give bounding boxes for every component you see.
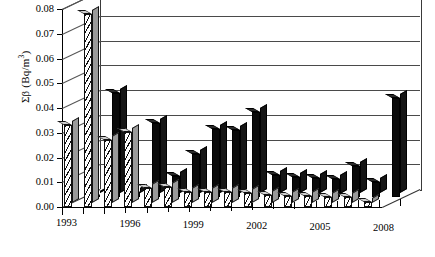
axis-x-front (62, 207, 382, 208)
y-axis-tick-label: 0.01 (20, 177, 54, 188)
x-axis-tick (125, 206, 126, 213)
bar-side-face (200, 146, 207, 193)
x-axis-tick (400, 199, 401, 206)
y-gridline (100, 65, 420, 66)
bar-side-face (132, 124, 139, 203)
y-axis-tick-label: 0.05 (20, 78, 54, 89)
x-axis-tick (316, 201, 317, 208)
x-axis-tick (168, 205, 169, 212)
x-axis-tick (189, 205, 190, 212)
y-axis-tick-label: 0.07 (20, 29, 54, 40)
x-axis-tick (273, 202, 274, 209)
x-axis-tick-label: 1993 (56, 217, 77, 228)
x-axis-tick (252, 203, 253, 210)
y-gridline (100, 90, 420, 91)
beta-activity-bar-chart: Σβ (Bq/m3) 0.000.010.020.030.040.050.060… (0, 0, 435, 257)
bar-hatched (364, 202, 372, 207)
bar-side-face (92, 6, 99, 203)
y-axis-tick-label: 0.06 (20, 54, 54, 65)
bar-side-face (72, 117, 79, 203)
bar-side-face (112, 132, 119, 203)
x-axis-tick (337, 201, 338, 208)
x-axis-tick-label: 1996 (119, 218, 140, 229)
bar-hatched (104, 140, 112, 207)
x-axis-tick (104, 207, 105, 214)
bar-side-face (360, 158, 367, 193)
bar-solid (392, 98, 400, 197)
bar-hatched (64, 125, 72, 207)
bar-hatched (304, 196, 312, 207)
y-axis-tick-label: 0.03 (20, 128, 54, 139)
bar-side-face (160, 115, 167, 193)
bar-side-face (240, 122, 247, 193)
bar-side-face (340, 171, 347, 194)
bar-hatched (284, 196, 292, 207)
bar-hatched (204, 192, 212, 207)
x-axis-tick-label: 2005 (310, 221, 331, 232)
bar-side-face (400, 90, 407, 193)
bar-hatched (144, 188, 152, 207)
y-axis-tick-label: 0.04 (20, 103, 54, 114)
y-gridline (100, 16, 420, 17)
bar-side-face (320, 170, 327, 193)
bar-hatched (244, 193, 252, 207)
x-axis-tick-label: 2002 (246, 220, 267, 231)
x-axis-tick-label: 2008 (373, 222, 394, 233)
y-axis-tick-label: 0.08 (20, 4, 54, 15)
x-axis-tick (358, 200, 359, 207)
bar-hatched (84, 14, 92, 207)
x-axis-tick (231, 204, 232, 211)
bar-hatched (264, 195, 272, 207)
bar-side-face (280, 167, 287, 193)
x-axis-tick (62, 208, 63, 215)
bar-hatched (324, 197, 332, 207)
x-axis-tick (294, 202, 295, 209)
bar-side-face (260, 104, 267, 193)
bar-hatched (344, 197, 352, 207)
x-axis-tick (210, 204, 211, 211)
x-axis-tick (147, 206, 148, 213)
x-axis-tick (379, 200, 380, 207)
y-gridline (100, 41, 420, 42)
bar-hatched (164, 187, 172, 207)
y-axis-tick-label: 0.00 (20, 202, 54, 213)
x-axis-tick-label: 1999 (183, 219, 204, 230)
y-axis-tick-label: 0.02 (20, 153, 54, 164)
bar-hatched (124, 132, 132, 207)
x-axis-tick (83, 207, 84, 214)
bar-side-face (220, 121, 227, 193)
